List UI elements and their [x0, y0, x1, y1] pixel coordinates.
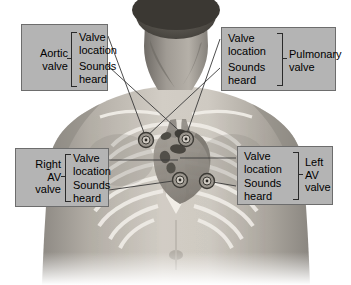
- pulmonary-bracket: [277, 33, 283, 86]
- callout-left-av-valve[interactable]: Valve location Sounds heard Left AV valv…: [237, 146, 333, 205]
- pulmonary-bracket-tick: [282, 58, 287, 59]
- right-av-bracket-tick: [61, 176, 66, 177]
- aortic-valve-location-text: Valve location: [79, 31, 127, 56]
- left-av-bracket: [293, 152, 299, 200]
- pulmonary-valve-location-text: Valve location: [228, 32, 276, 57]
- callout-pulmonary-valve[interactable]: Valve location Sounds heard Pulmonary va…: [221, 27, 336, 91]
- aortic-bracket-tick: [67, 58, 72, 59]
- pulmonary-sounds-heard-text: Sounds heard: [228, 61, 276, 86]
- pulmonary-valve-label: Pulmonary valve: [289, 48, 337, 73]
- left-av-valve-location-text: Valve location: [244, 150, 292, 175]
- left-av-bracket-tick: [298, 174, 303, 175]
- left-av-valve-label: Left AV valve: [305, 156, 335, 194]
- aortic-sounds-heard-text: Sounds heard: [79, 60, 127, 85]
- right-av-sounds-heard-text: Sounds heard: [73, 179, 121, 204]
- right-av-bracket: [65, 154, 71, 202]
- callout-aortic-valve[interactable]: Aortic valve Valve location Sounds heard: [21, 24, 108, 91]
- right-av-valve-location-text: Valve location: [73, 152, 121, 177]
- figure-canvas: Aortic valve Valve location Sounds heard…: [0, 0, 351, 285]
- aortic-valve-label: Aortic valve: [26, 47, 68, 72]
- aortic-bracket: [71, 32, 77, 87]
- callout-right-av-valve[interactable]: Right AV valve Valve location Sounds hea…: [15, 148, 109, 207]
- right-av-valve-label: Right AV valve: [19, 158, 61, 196]
- left-av-sounds-heard-text: Sounds heard: [244, 177, 292, 202]
